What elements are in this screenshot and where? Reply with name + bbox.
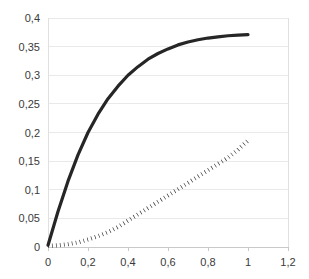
gridlines-group [48, 18, 288, 247]
x-tick-label-5: 1 [245, 257, 251, 268]
tick-marks-group [48, 247, 288, 251]
y-tick-label-1: 0,05 [0, 213, 40, 224]
y-tick-label-6: 0,3 [0, 70, 40, 81]
y-tick-label-5: 0,25 [0, 98, 40, 109]
x-tick-label-2: 0,4 [120, 257, 135, 268]
y-tick-label-7: 0,35 [0, 41, 40, 52]
x-tick-label-4: 0,8 [200, 257, 215, 268]
x-tick-label-3: 0,6 [160, 257, 175, 268]
x-tick-label-0: 0 [45, 257, 51, 268]
x-tick-label-1: 0,2 [80, 257, 95, 268]
series-line-solid-curve [48, 35, 248, 246]
y-tick-label-8: 0,4 [0, 13, 40, 24]
x-tick-label-6: 1,2 [280, 257, 295, 268]
y-tick-label-0: 0 [0, 242, 40, 253]
y-tick-label-2: 0,1 [0, 184, 40, 195]
chart-container: 00,050,10,150,20,250,30,350,4 00,20,40,6… [0, 0, 309, 279]
y-tick-label-4: 0,2 [0, 127, 40, 138]
y-tick-label-3: 0,15 [0, 156, 40, 167]
chart-plot-svg [0, 0, 309, 279]
data-series-group [48, 35, 248, 246]
